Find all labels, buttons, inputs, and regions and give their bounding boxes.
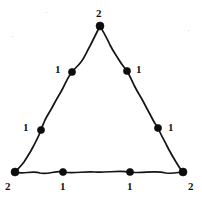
- node-dot-lower-right: [154, 124, 161, 131]
- triangle-diagram: 211112112: [0, 0, 202, 200]
- diagram-canvas: [0, 0, 202, 200]
- node-dot-apex: [96, 22, 104, 30]
- node-dot-upper-left: [68, 68, 75, 75]
- node-label-bottom-left: 2: [5, 181, 11, 192]
- scan-speck: [46, 12, 47, 13]
- node-label-upper-left: 1: [55, 64, 61, 75]
- node-dot-bottom-mid-r: [126, 168, 133, 175]
- triangle-edge-right: [100, 26, 183, 172]
- node-dot-bottom-left: [11, 168, 19, 176]
- triangle-edge-bottom: [15, 171, 183, 173]
- node-label-bottom-mid-l: 1: [60, 181, 66, 192]
- node-label-lower-right: 1: [168, 122, 174, 133]
- node-dot-bottom-mid-l: [59, 168, 66, 175]
- node-dot-bottom-right: [179, 168, 187, 176]
- scan-speck: [188, 30, 189, 31]
- nodes-group: [11, 22, 187, 176]
- node-label-upper-right: 1: [136, 64, 142, 75]
- edges-group: [15, 26, 183, 173]
- node-label-bottom-right: 2: [188, 181, 194, 192]
- node-label-apex: 2: [96, 8, 102, 19]
- triangle-edge-left: [15, 26, 100, 172]
- node-label-lower-left: 1: [23, 122, 29, 133]
- scan-speck: [12, 36, 13, 37]
- node-label-bottom-mid-r: 1: [127, 181, 133, 192]
- node-dot-lower-left: [37, 126, 44, 133]
- node-dot-upper-right: [123, 67, 130, 74]
